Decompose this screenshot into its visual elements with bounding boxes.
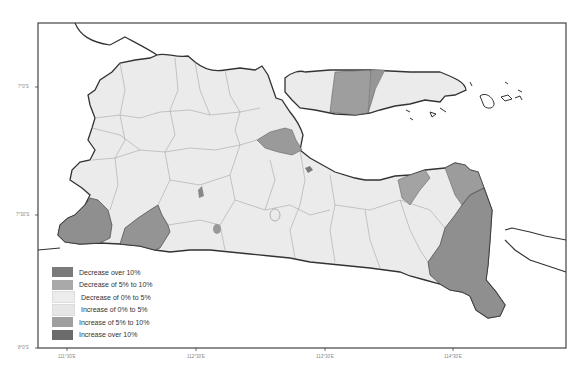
legend-label: Decrease of 5% to 10%: [79, 281, 153, 288]
y-tick-label: 8°0'S: [18, 345, 29, 350]
map-legend: Decrease over 10% Decrease of 5% to 10% …: [52, 266, 153, 341]
legend-swatch: [52, 267, 73, 277]
y-tick-label: 7°0'S: [18, 84, 29, 89]
legend-swatch: [52, 280, 73, 290]
legend-item-decrease-0-5: Decrease of 0% to 5%: [52, 291, 153, 304]
legend-item-decrease-5-10: Decrease of 5% to 10%: [52, 279, 153, 292]
legend-swatch: [52, 304, 75, 316]
x-tick-label: 114°30'E: [444, 354, 462, 359]
legend-item-increase-5-10: Increase of 5% to 10%: [52, 316, 153, 329]
legend-label: Increase of 0% to 5%: [81, 306, 148, 313]
x-tick-label: 111°30'E: [58, 354, 76, 359]
x-tick-label: 113°30'E: [316, 354, 334, 359]
legend-label: Increase over 10%: [79, 331, 137, 338]
small-patch-grey: [213, 224, 221, 234]
legend-item-increase-0-5: Increase of 0% to 5%: [52, 304, 153, 317]
legend-label: Decrease over 10%: [79, 269, 140, 276]
legend-item-decrease-over-10: Decrease over 10%: [52, 266, 153, 279]
legend-item-increase-over-10: Increase over 10%: [52, 329, 153, 342]
legend-swatch: [52, 317, 73, 327]
legend-label: Increase of 5% to 10%: [79, 319, 149, 326]
legend-swatch: [52, 330, 73, 340]
x-tick-label: 112°30'E: [187, 354, 205, 359]
legend-label: Decrease of 0% to 5%: [81, 294, 151, 301]
y-tick-label: 7°30'S: [16, 212, 29, 217]
legend-swatch: [52, 291, 75, 303]
